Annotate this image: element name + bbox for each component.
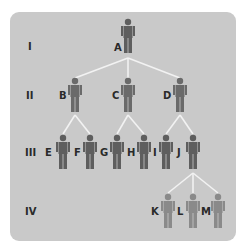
node-label-k: K — [151, 206, 159, 217]
person-icon-b — [68, 77, 82, 113]
node-label-b: B — [59, 90, 67, 101]
node-label-f: F — [74, 147, 81, 158]
generation-label-iv: IV — [25, 206, 36, 217]
node-label-c: C — [112, 90, 119, 101]
generation-label-ii: II — [26, 90, 33, 101]
person-icon-i — [159, 134, 173, 170]
person-icon-j — [186, 134, 200, 170]
person-icon-h — [137, 134, 151, 170]
node-label-g: G — [100, 147, 108, 158]
node-label-i: I — [153, 147, 157, 158]
person-icon-c — [121, 77, 135, 113]
person-icon-a — [121, 18, 135, 54]
node-label-d: D — [163, 90, 171, 101]
person-icon-d — [173, 77, 187, 113]
node-label-l: L — [177, 206, 183, 217]
node-label-j: J — [177, 147, 181, 158]
generation-label-i: I — [28, 41, 32, 52]
person-icon-g — [110, 134, 124, 170]
node-label-h: H — [127, 147, 135, 158]
node-label-a: A — [114, 42, 122, 53]
generation-label-iii: III — [25, 147, 36, 158]
person-icon-k — [161, 193, 175, 229]
person-icon-f — [83, 134, 97, 170]
node-label-e: E — [45, 147, 52, 158]
person-icon-l — [186, 193, 200, 229]
person-icon-m — [211, 193, 225, 229]
node-label-m: M — [201, 206, 211, 217]
person-icon-e — [56, 134, 70, 170]
